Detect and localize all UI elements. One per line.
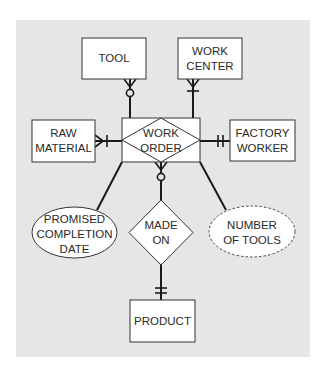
attribute-label: DATE [60,243,90,255]
svg-text:WORK: WORK [143,127,179,139]
svg-text:MADE: MADE [144,219,178,231]
svg-text:TOOL: TOOL [98,52,130,64]
entity-product[interactable]: PRODUCT [130,300,195,342]
entity-label: MATERIAL [35,142,92,154]
svg-text:NUMBER: NUMBER [227,219,277,231]
svg-text:PROMISED: PROMISED [44,213,105,225]
svg-text:OF TOOLS: OF TOOLS [223,234,281,246]
entity-tool[interactable]: TOOL [82,38,146,79]
svg-text:RAW: RAW [50,127,77,139]
svg-text:MATERIAL: MATERIAL [35,142,92,154]
svg-text:FACTORY: FACTORY [236,127,290,139]
entity-label: TOOL [98,52,130,64]
attribute-label: OF TOOLS [223,234,281,246]
svg-text:COMPLETION: COMPLETION [36,228,112,240]
entity-label: ORDER [140,142,182,154]
svg-text:PRODUCT: PRODUCT [134,315,191,327]
svg-text:ON: ON [152,234,169,246]
svg-text:DATE: DATE [60,243,90,255]
svg-text:ORDER: ORDER [140,142,182,154]
associative-entity-work-order[interactable]: WORK ORDER [122,118,200,162]
entity-work-center[interactable]: WORK CENTER [178,38,242,79]
entity-label: WORK [192,45,228,57]
svg-text:WORKER: WORKER [237,142,289,154]
relationship-label: ON [152,234,169,246]
entity-label: FACTORY [236,127,290,139]
svg-text:WORK: WORK [192,45,228,57]
entity-raw-material[interactable]: RAW MATERIAL [32,120,95,162]
er-diagram: TOOL WORK CENTER RAW MATERIAL FACTORY WO… [0,0,325,371]
svg-text:CENTER: CENTER [186,60,233,72]
attribute-label: PROMISED [44,213,105,225]
attribute-label: NUMBER [227,219,277,231]
attribute-label: COMPLETION [36,228,112,240]
entity-factory-worker[interactable]: FACTORY WORKER [230,120,295,161]
entity-label: RAW [50,127,77,139]
entity-label: WORKER [237,142,289,154]
entity-label: WORK [143,127,179,139]
entity-label: PRODUCT [134,315,191,327]
attribute-number-of-tools[interactable]: NUMBER OF TOOLS [209,206,295,257]
relationship-label: MADE [144,219,178,231]
attribute-promised-completion-date[interactable]: PROMISED COMPLETION DATE [32,207,117,258]
entity-label: CENTER [186,60,233,72]
